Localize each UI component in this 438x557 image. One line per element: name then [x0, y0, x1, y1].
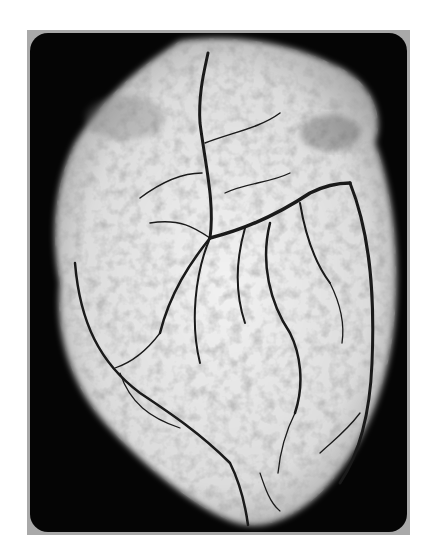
radiograph-photo: Black-and-white X-ray angiogram of an ex…	[30, 33, 407, 532]
image-frame: Black-and-white X-ray angiogram of an ex…	[27, 30, 410, 535]
heart-radiograph-illustration	[30, 33, 407, 532]
